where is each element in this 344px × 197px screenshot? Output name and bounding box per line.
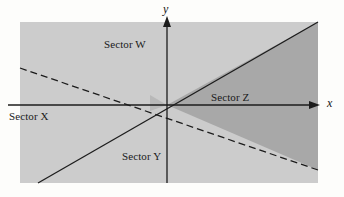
y-axis-label: y: [163, 2, 168, 17]
diagram-canvas: [0, 0, 344, 197]
sector-label-y: Sector Y: [122, 150, 161, 162]
x-axis-label: x: [327, 96, 332, 111]
sector-label-x: Sector X: [9, 110, 49, 122]
y-axis-arrowhead: [163, 16, 171, 27]
sector-diagram-figure: Sector W Sector X Sector Y Sector Z y x: [0, 0, 344, 197]
sector-label-w: Sector W: [104, 38, 146, 50]
sector-label-z: Sector Z: [211, 91, 249, 103]
